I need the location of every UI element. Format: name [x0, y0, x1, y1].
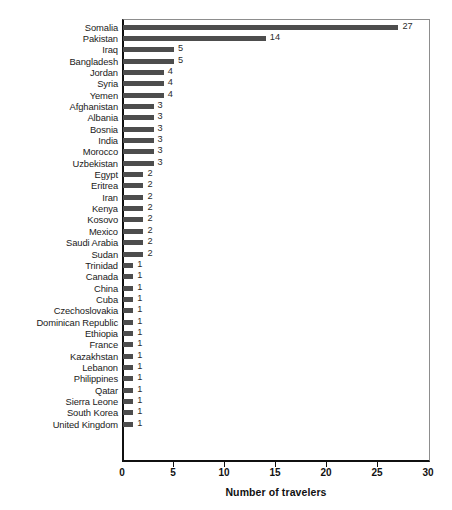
category-label: France	[89, 339, 118, 350]
category-label: Morocco	[83, 146, 118, 157]
bar-value-label: 3	[158, 100, 163, 111]
bar-value-label: 1	[137, 361, 142, 372]
bar-row: Eritrea2	[0, 180, 452, 191]
category-label: Philippines	[74, 373, 118, 384]
bar-value-label: 3	[158, 157, 163, 168]
bar-value-label: 2	[147, 202, 152, 213]
x-tick-label: 20	[320, 467, 331, 478]
bar-value-label: 1	[137, 327, 142, 338]
bar	[123, 354, 133, 359]
category-label: Bosnia	[90, 124, 118, 135]
bar-row: Afghanistan3	[0, 101, 452, 112]
x-axis-title: Number of travelers	[122, 486, 430, 498]
bar-value-label: 1	[137, 384, 142, 395]
bar-row: Ethiopia1	[0, 328, 452, 339]
category-label: Syria	[97, 78, 118, 89]
category-label: Yemen	[90, 90, 118, 101]
bar	[123, 297, 133, 302]
category-label: Kosovo	[87, 214, 118, 225]
bar-rows-container: Somalia27Pakistan14Iraq5Bangladesh5Jorda…	[0, 19, 452, 460]
category-label: India	[98, 135, 118, 146]
bar-row: Pakistan14	[0, 33, 452, 44]
bar-value-label: 1	[137, 338, 142, 349]
bar-value-label: 1	[137, 293, 142, 304]
bar-row: Egypt2	[0, 169, 452, 180]
bar-value-label: 27	[402, 21, 412, 32]
category-label: Egypt	[95, 169, 118, 180]
bar	[123, 240, 143, 245]
bar	[123, 183, 143, 188]
bar-value-label: 14	[270, 32, 280, 43]
bar-row: Kazakhstan1	[0, 351, 452, 362]
bar	[123, 59, 174, 64]
bar	[123, 365, 133, 370]
bar-row: India3	[0, 135, 452, 146]
bar	[123, 81, 164, 86]
bar-row: Sierra Leone1	[0, 396, 452, 407]
bar-value-label: 1	[137, 316, 142, 327]
bar-value-label: 2	[147, 248, 152, 259]
bar-value-label: 3	[158, 111, 163, 122]
bar-value-label: 2	[147, 191, 152, 202]
bar-value-label: 1	[137, 350, 142, 361]
bar	[123, 149, 154, 154]
bar-row: Morocco3	[0, 146, 452, 157]
category-label: Cuba	[96, 294, 118, 305]
category-label: Kenya	[92, 203, 118, 214]
category-label: Sierra Leone	[66, 396, 118, 407]
category-label: Sudan	[91, 249, 118, 260]
bar-row: Yemen4	[0, 90, 452, 101]
bar-row: Somalia27	[0, 22, 452, 33]
bar-value-label: 1	[137, 395, 142, 406]
category-label: Pakistan	[83, 33, 118, 44]
category-label: Trinidad	[85, 260, 118, 271]
bar-value-label: 1	[137, 270, 142, 281]
bar	[123, 320, 133, 325]
bar-row: Philippines1	[0, 373, 452, 384]
bar	[123, 410, 133, 415]
bar-chart-figure: Somalia27Pakistan14Iraq5Bangladesh5Jorda…	[0, 0, 452, 510]
bar	[123, 206, 143, 211]
category-label: Jordan	[90, 67, 118, 78]
category-label: Somalia	[85, 22, 118, 33]
bar-value-label: 2	[147, 225, 152, 236]
bar	[123, 172, 143, 177]
bar-row: Kosovo2	[0, 214, 452, 225]
bar	[123, 422, 133, 427]
bar-value-label: 1	[137, 406, 142, 417]
bar-value-label: 3	[158, 134, 163, 145]
bar	[123, 70, 164, 75]
x-tick-label: 5	[170, 467, 176, 478]
bar-row: Bangladesh5	[0, 56, 452, 67]
bar-row: Lebanon1	[0, 362, 452, 373]
category-label: Albania	[87, 112, 118, 123]
category-label: Eritrea	[91, 180, 118, 191]
bar	[123, 138, 154, 143]
bar-row: China1	[0, 283, 452, 294]
bar	[123, 331, 133, 336]
bar-row: Trinidad1	[0, 260, 452, 271]
category-label: China	[94, 283, 118, 294]
bar-row: Czechoslovakia1	[0, 305, 452, 316]
bar-row: Sudan2	[0, 249, 452, 260]
bar	[123, 252, 143, 257]
bar-row: Dominican Republic1	[0, 317, 452, 328]
bar-value-label: 5	[178, 43, 183, 54]
bar-value-label: 1	[137, 304, 142, 315]
bar-value-label: 4	[168, 77, 173, 88]
bar-row: Cuba1	[0, 294, 452, 305]
x-axis-tick-labels: 051015202530	[0, 467, 452, 481]
bar-row: Albania3	[0, 112, 452, 123]
bar-value-label: 2	[147, 213, 152, 224]
bar	[123, 195, 143, 200]
bar-row: United Kingdom1	[0, 419, 452, 430]
bar	[123, 36, 266, 41]
bar	[123, 274, 133, 279]
bar-row: Uzbekistan3	[0, 158, 452, 169]
bar	[123, 342, 133, 347]
bar-value-label: 2	[147, 236, 152, 247]
category-label: South Korea	[67, 407, 118, 418]
x-tick-label: 15	[269, 467, 280, 478]
bar	[123, 25, 398, 30]
category-label: Iraq	[102, 44, 118, 55]
